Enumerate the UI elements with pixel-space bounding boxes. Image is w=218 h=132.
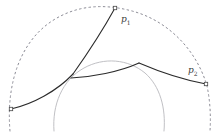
figure-canvas: p1 p2	[0, 0, 218, 132]
label-p2: p2	[188, 65, 198, 77]
geodesic-figure: p1 p2	[0, 0, 218, 132]
geodesic-curve-junction-to-apex	[71, 63, 139, 78]
point-left-endpoint	[9, 107, 12, 110]
inner-circle-solid	[54, 61, 165, 131]
label-p1: p1	[121, 14, 131, 26]
boundary-circle-dashed	[9, 7, 210, 131]
label-p2-subscript: 2	[194, 70, 198, 77]
label-p1-subscript: 1	[127, 19, 131, 26]
point-p2	[204, 82, 207, 85]
geodesic-curve-junction-to-left	[11, 74, 73, 109]
point-p1	[113, 6, 116, 9]
